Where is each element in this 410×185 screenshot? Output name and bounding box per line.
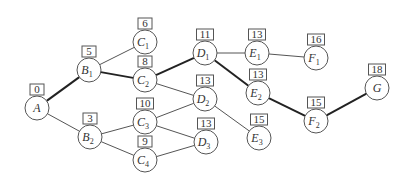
- node-d1: 11D1: [193, 28, 217, 65]
- node-subscript: 2: [316, 121, 320, 130]
- time-label: 18: [372, 63, 384, 75]
- node-name: A: [32, 101, 41, 115]
- edge-d2-e3: [215, 106, 250, 131]
- node-c3: 10C3: [133, 97, 157, 134]
- time-label: 5: [86, 45, 92, 57]
- edge-d1-e2: [215, 60, 249, 86]
- node-subscript: 2: [90, 137, 94, 146]
- edge-c2-d1: [156, 58, 194, 75]
- node-subscript: 2: [145, 80, 149, 89]
- time-label: 10: [140, 97, 152, 109]
- edge-a-b2: [48, 114, 80, 131]
- time-label: 16: [311, 33, 323, 45]
- time-label: 13: [201, 117, 213, 129]
- time-label: 13: [252, 28, 264, 40]
- time-label: 3: [87, 112, 93, 124]
- node-c1: 6C1: [133, 17, 157, 54]
- time-label: 0: [34, 83, 40, 95]
- node-subscript: 1: [89, 70, 93, 79]
- node-subscript: 3: [206, 142, 210, 151]
- node-e2: 13E2: [246, 68, 270, 105]
- time-label: 6: [142, 17, 148, 29]
- time-label: 13: [253, 68, 265, 80]
- node-subscript: 1: [316, 58, 320, 67]
- edge-e2-f2: [269, 98, 305, 116]
- edge-c4-d3: [157, 145, 195, 156]
- node-d3: 13D3: [194, 117, 218, 154]
- node-subscript: 1: [205, 53, 209, 62]
- node-e3: 15E3: [247, 113, 271, 150]
- node-c2: 8C2: [133, 55, 157, 92]
- node-e1: 13E1: [245, 28, 269, 65]
- edge-e1-f1: [269, 54, 304, 57]
- edge-c2-d2: [156, 84, 193, 96]
- nodes-layer: 0A5B13B26C18C210C39C411D113D213D313E113E…: [25, 17, 389, 172]
- edge-b1-c1: [100, 47, 135, 64]
- node-d2: 13D2: [193, 74, 217, 111]
- time-label: 9: [142, 135, 148, 147]
- time-label: 8: [142, 55, 148, 67]
- node-subscript: 3: [145, 122, 149, 131]
- edge-b1-c2: [101, 72, 133, 78]
- node-name: G: [373, 81, 382, 95]
- node-subscript: 2: [205, 99, 209, 108]
- node-subscript: 3: [259, 138, 263, 147]
- time-label: 15: [254, 113, 266, 125]
- node-c4: 9C4: [133, 135, 157, 172]
- edge-f2-g: [327, 94, 367, 116]
- edge-b2-c3: [102, 125, 134, 134]
- network-diagram: 0A5B13B26C18C210C39C411D113D213D313E113E…: [0, 0, 410, 185]
- node-b2: 3B2: [78, 112, 102, 149]
- node-subscript: 1: [257, 53, 261, 62]
- node-subscript: 2: [258, 93, 262, 102]
- time-label: 15: [311, 96, 323, 108]
- edge-c3-d2: [156, 103, 194, 117]
- node-g: 18G: [365, 63, 389, 100]
- node-subscript: 4: [145, 160, 149, 169]
- node-f2: 15F2: [304, 96, 328, 133]
- time-label: 13: [200, 74, 212, 86]
- node-a: 0A: [25, 83, 49, 120]
- edge-b2-c4: [101, 142, 134, 156]
- edge-a-b1: [47, 77, 80, 101]
- time-label: 11: [200, 28, 211, 40]
- node-subscript: 1: [145, 42, 149, 51]
- node-b1: 5B1: [77, 45, 101, 82]
- edge-c3-d3: [156, 126, 194, 139]
- node-f1: 16F1: [304, 33, 328, 70]
